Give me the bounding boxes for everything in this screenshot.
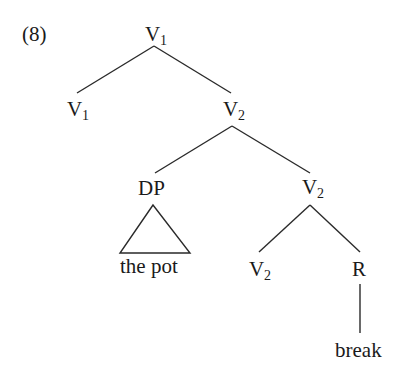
svg-text:2: 2: [264, 268, 271, 283]
svg-text:V: V: [67, 97, 82, 121]
leaf-break: break: [335, 338, 382, 362]
svg-text:V: V: [223, 97, 238, 121]
edge-root-right: [154, 46, 231, 93]
node-dp: DP: [138, 176, 165, 200]
node-v2-right: V 2: [302, 175, 324, 201]
leaf-the-pot: the pot: [120, 254, 178, 278]
svg-text:1: 1: [160, 33, 167, 48]
node-v2-bottom: V 2: [249, 257, 271, 283]
edge-v2-v2right: [232, 126, 310, 173]
node-root-v1: V 1: [145, 22, 167, 48]
edge-v2right-v2bottom: [259, 205, 310, 252]
svg-text:V: V: [302, 175, 317, 199]
node-r: R: [352, 257, 366, 281]
example-number: (8): [22, 22, 47, 46]
svg-text:2: 2: [317, 186, 324, 201]
svg-text:1: 1: [82, 108, 89, 123]
node-v2-mid: V 2: [223, 97, 245, 123]
svg-text:V: V: [249, 257, 264, 281]
node-v1-left: V 1: [67, 97, 89, 123]
triangle-abbreviation: [120, 205, 190, 253]
syntax-tree-diagram: (8) V 1 V 1 V 2 DP the pot V 2 V 2 R bre…: [0, 0, 407, 374]
edge-root-left: [77, 46, 154, 93]
edge-v2right-r: [310, 205, 360, 252]
svg-text:2: 2: [238, 108, 245, 123]
svg-text:V: V: [145, 22, 160, 46]
edge-v2-dp: [155, 126, 232, 173]
